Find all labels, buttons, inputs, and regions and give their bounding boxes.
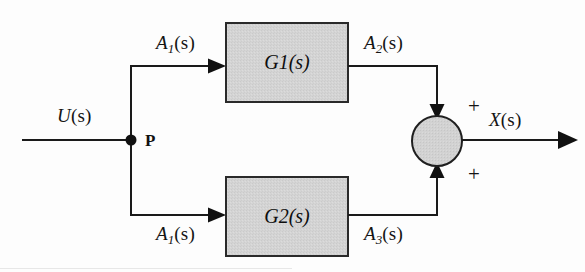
block-g1-sub: 1 [279, 51, 289, 73]
label-branch-lower-name: A [156, 223, 168, 244]
label-input-signal: U(s) [57, 106, 92, 125]
label-lower-output-arg: (s) [382, 223, 403, 244]
summer-sign-top: + [468, 96, 480, 117]
branch-point-dot [126, 135, 137, 146]
summing-junction [412, 116, 462, 166]
label-lower-output: A3(s) [364, 224, 403, 246]
label-branch-upper: A1(s) [156, 33, 195, 55]
label-upper-output-name: A [364, 32, 376, 53]
label-input-text: U [57, 105, 71, 126]
label-output-arg: (s) [501, 109, 522, 130]
lower-branch-line [130, 208, 226, 223]
upper-output-line [348, 66, 445, 120]
block-g1-arg: (s) [289, 51, 310, 73]
block-g2-label: G2(s) [226, 206, 348, 226]
output-signal-line [462, 131, 578, 149]
block-g1-name: G [264, 51, 278, 73]
label-branch-lower-arg: (s) [174, 223, 195, 244]
label-output-signal: X(s) [489, 110, 521, 129]
block-g1-label: G1(s) [226, 52, 348, 72]
block-g2-sub: 2 [279, 205, 289, 227]
upper-branch-line [130, 59, 226, 74]
label-upper-output-arg: (s) [382, 32, 403, 53]
block-g2-arg: (s) [289, 205, 310, 227]
label-input-arg: (s) [71, 105, 92, 126]
label-lower-output-name: A [364, 223, 376, 244]
scan-artifact-line [0, 268, 292, 269]
summer-sign-bottom: + [468, 164, 480, 185]
branch-point-label: P [145, 132, 155, 149]
label-branch-lower: A1(s) [156, 224, 195, 246]
diagram-canvas [0, 0, 585, 272]
block-diagram-figure: U(s) P A1(s) G1(s) A2(s) A1(s) G2(s) A3(… [0, 0, 585, 272]
label-output-name: X [489, 109, 501, 130]
label-upper-output: A2(s) [364, 33, 403, 55]
lower-output-line [348, 162, 445, 215]
label-branch-upper-name: A [156, 32, 168, 53]
block-g2-name: G [264, 205, 278, 227]
label-branch-upper-arg: (s) [174, 32, 195, 53]
